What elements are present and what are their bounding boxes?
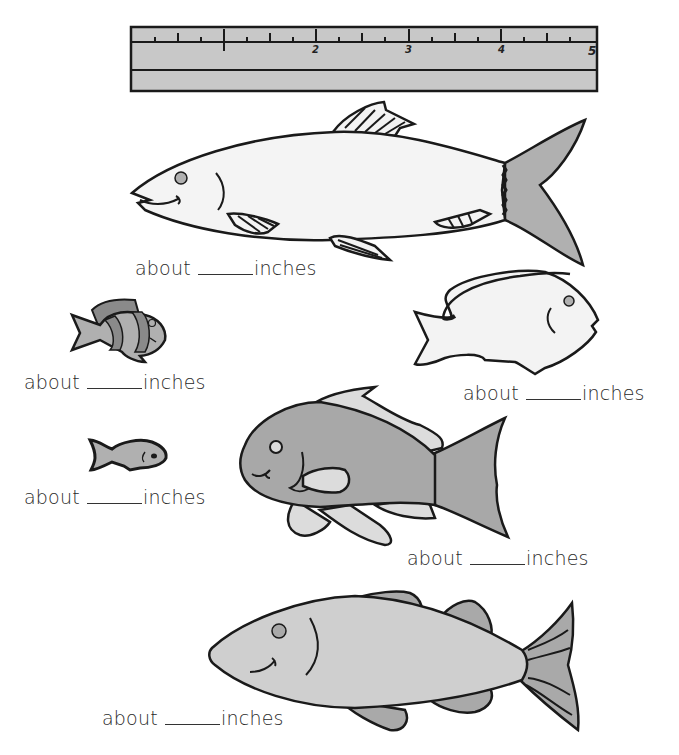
fish-4-answer-blank[interactable]	[87, 487, 142, 504]
label-prefix: about	[24, 486, 80, 508]
label-suffix: inches	[221, 707, 284, 729]
fish-1-length-label: about inches	[135, 257, 317, 279]
fish-1-answer-blank[interactable]	[198, 258, 253, 275]
fish-6-length-label: about inches	[102, 707, 284, 729]
ruler-number-2: 2	[312, 44, 319, 55]
fish-2-length-label: about inches	[24, 371, 206, 393]
label-prefix: about	[24, 371, 80, 393]
label-prefix: about	[463, 382, 519, 404]
label-suffix: inches	[526, 547, 589, 569]
label-suffix: inches	[143, 486, 206, 508]
ruler-number-5: 5	[588, 44, 596, 58]
fish-5-answer-blank[interactable]	[470, 548, 525, 565]
ruler: 2 3 4 5	[0, 0, 679, 100]
label-suffix: inches	[254, 257, 317, 279]
ruler-graphic	[0, 0, 679, 100]
fish-4-length-label: about inches	[24, 486, 206, 508]
label-suffix: inches	[143, 371, 206, 393]
fish-5-length-label: about inches	[407, 547, 589, 569]
fish-6-answer-blank[interactable]	[165, 708, 220, 725]
ruler-number-4: 4	[498, 44, 505, 55]
ruler-number-3: 3	[405, 44, 412, 55]
fish-3-length-label: about inches	[463, 382, 645, 404]
label-prefix: about	[135, 257, 191, 279]
label-suffix: inches	[582, 382, 645, 404]
label-prefix: about	[102, 707, 158, 729]
fish-2-answer-blank[interactable]	[87, 372, 142, 389]
label-prefix: about	[407, 547, 463, 569]
fish-3-answer-blank[interactable]	[526, 383, 581, 400]
